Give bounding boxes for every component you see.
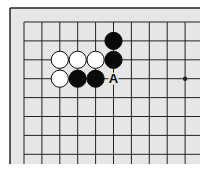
white-stone [69, 51, 86, 68]
star-points [183, 77, 187, 81]
black-stone [105, 51, 122, 68]
white-stone [51, 70, 68, 87]
go-board: A [0, 0, 209, 173]
white-stone [51, 51, 68, 68]
black-stone [105, 32, 122, 49]
white-stone [87, 51, 104, 68]
point-label: A [109, 71, 119, 86]
point-labels: A [109, 71, 119, 86]
board-background [10, 8, 200, 164]
star-point [183, 77, 187, 81]
black-stone [69, 70, 86, 87]
black-stone [87, 70, 104, 87]
